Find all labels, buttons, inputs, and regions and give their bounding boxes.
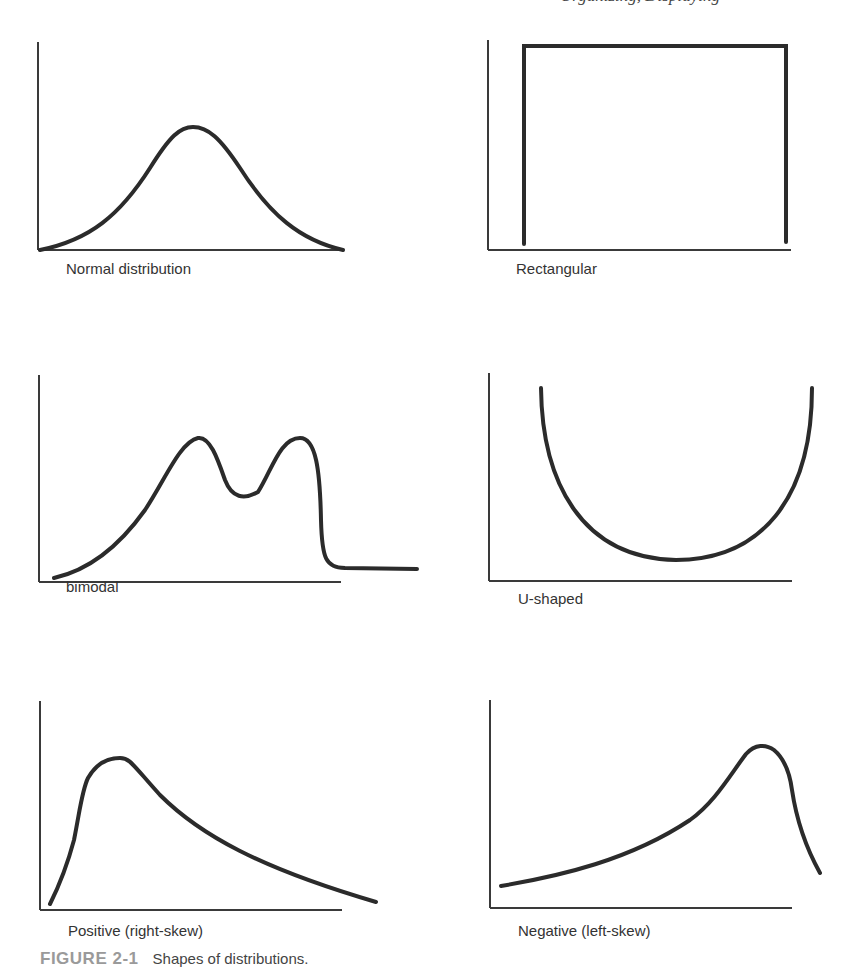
figure-caption: FIGURE 2-1Shapes of distributions.: [40, 949, 308, 969]
panel-normal-distribution: Normal distribution: [0, 0, 430, 320]
panel-label: U-shaped: [518, 590, 583, 607]
panel-bimodal: bimodal: [0, 320, 430, 640]
panel-label: Positive (right-skew): [68, 922, 203, 939]
panel-label: Rectangular: [516, 260, 597, 277]
panel-negative-skew: Negative (left-skew): [430, 640, 861, 940]
figure-number: FIGURE 2-1: [40, 949, 139, 968]
u-shaped-chart: [430, 320, 861, 640]
panel-rectangular: Rectangular: [430, 0, 861, 320]
panel-label: Negative (left-skew): [518, 922, 651, 939]
panel-label: bimodal: [66, 578, 119, 595]
normal-distribution-chart: [0, 0, 430, 320]
rectangular-chart: [430, 0, 861, 320]
bimodal-chart: [0, 320, 430, 640]
panel-positive-skew: Positive (right-skew): [0, 640, 430, 940]
caption-text: Shapes of distributions.: [153, 950, 309, 967]
panel-label: Normal distribution: [66, 260, 191, 277]
negative-skew-chart: [430, 640, 861, 940]
positive-skew-chart: [0, 640, 430, 940]
panel-u-shaped: U-shaped: [430, 320, 861, 640]
